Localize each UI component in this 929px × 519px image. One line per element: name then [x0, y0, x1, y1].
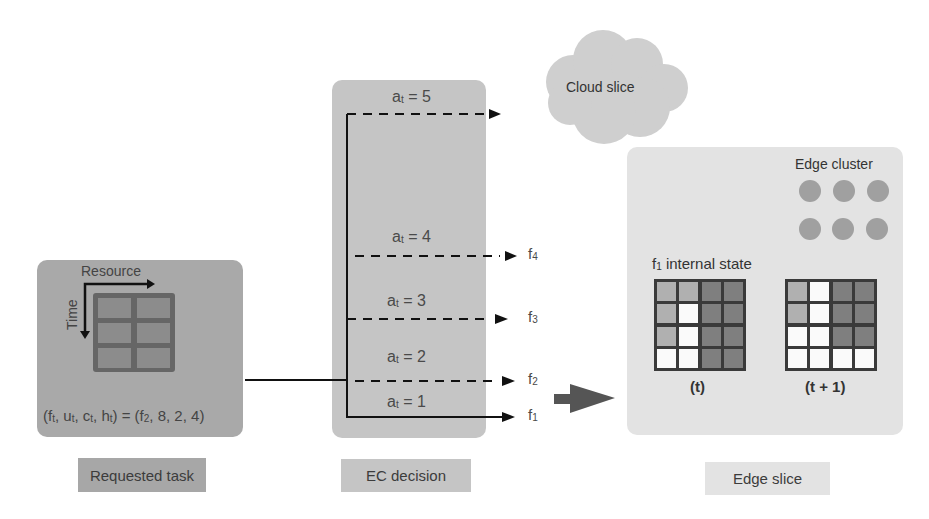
node-icon: [832, 218, 854, 240]
big-arrow-icon: [554, 384, 615, 413]
internal-state-grid-t: [654, 279, 746, 371]
task-tuple: (ft, ut, ct, ht) = (f2, 8, 2, 4): [43, 407, 204, 424]
edge-cluster-nodes: [799, 180, 889, 240]
state-cell: [810, 327, 829, 346]
state-cell: [679, 327, 698, 346]
node-icon: [866, 218, 888, 240]
node-icon: [799, 180, 821, 202]
node-icon: [799, 218, 821, 240]
action-label-1: at = 1: [387, 393, 426, 411]
task-resource-grid: [93, 293, 175, 372]
internal-state-label: f1 internal state: [652, 255, 752, 272]
state-cell: [702, 304, 721, 323]
state-cell: [702, 282, 721, 301]
state-cell: [810, 349, 829, 368]
ec-decision-caption: EC decision: [341, 459, 471, 492]
arrowhead-icon: [489, 109, 501, 119]
state-cell: [833, 282, 852, 301]
state-cell: [833, 349, 852, 368]
grid-label-t-plus-1: (t + 1): [805, 378, 845, 395]
state-cell: [833, 304, 852, 323]
state-cell: [679, 282, 698, 301]
node-icon: [867, 180, 889, 202]
arrowhead-icon: [502, 376, 515, 386]
action-label-4: at = 4: [392, 228, 431, 246]
resource-arrowhead-icon: [147, 279, 155, 289]
state-cell: [788, 327, 807, 346]
arrowhead-icon: [495, 314, 508, 324]
state-cell: [810, 282, 829, 301]
time-arrowhead-icon: [80, 331, 90, 339]
state-cell: [855, 282, 874, 301]
internal-state-grid-t-plus-1: [785, 279, 877, 371]
state-cell: [788, 349, 807, 368]
time-axis-label: Time: [64, 299, 80, 330]
action-label-2: at = 2: [387, 348, 426, 366]
arrowhead-icon: [505, 251, 517, 261]
state-cell: [679, 349, 698, 368]
state-cell: [833, 327, 852, 346]
edge-slice-caption: Edge slice: [705, 462, 830, 495]
resource-axis-label: Resource: [81, 263, 141, 279]
diagram-canvas: [0, 0, 929, 519]
state-cell: [724, 282, 743, 301]
target-f2: f2: [528, 370, 538, 387]
target-f4: f4: [528, 245, 538, 262]
state-cell: [679, 304, 698, 323]
arrowhead-icon: [502, 412, 515, 422]
node-icon: [833, 180, 855, 202]
requested-task-caption: Requested task: [78, 458, 206, 492]
target-f1: f1: [528, 406, 538, 423]
state-cell: [702, 349, 721, 368]
state-cell: [657, 304, 676, 323]
state-cell: [657, 282, 676, 301]
state-cell: [724, 349, 743, 368]
action-label-5: at = 5: [392, 88, 431, 106]
state-cell: [855, 349, 874, 368]
state-cell: [788, 282, 807, 301]
state-cell: [855, 304, 874, 323]
cloud-slice-label: Cloud slice: [566, 79, 634, 95]
state-cell: [702, 327, 721, 346]
target-f3: f3: [528, 308, 538, 325]
state-cell: [855, 327, 874, 346]
grid-label-t: (t): [690, 378, 705, 395]
state-cell: [657, 349, 676, 368]
state-cell: [724, 327, 743, 346]
action-label-3: at = 3: [387, 292, 426, 310]
state-cell: [788, 304, 807, 323]
edge-cluster-label: Edge cluster: [795, 156, 873, 172]
state-cell: [810, 304, 829, 323]
state-cell: [724, 304, 743, 323]
state-cell: [657, 327, 676, 346]
